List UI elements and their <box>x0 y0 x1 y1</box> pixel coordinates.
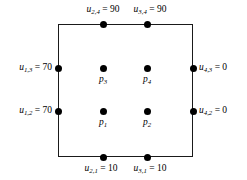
interior-label-p4: p4 <box>143 75 151 85</box>
boundary-label-u-4-2: u4,2 = 0 <box>199 106 227 116</box>
boundary-node-dot-u-2-1 <box>100 154 107 161</box>
boundary-label-u-4-3: u4,3 = 0 <box>199 63 227 73</box>
boundary-value-u-4-3: 0 <box>222 62 227 72</box>
boundary-label-u-2-1: u2,1 = 10 <box>85 164 118 174</box>
boundary-label-u-3-1: u3,1 = 10 <box>134 164 167 174</box>
boundary-value-u-2-1: 10 <box>108 163 118 173</box>
boundary-node-dot-u-4-2 <box>190 108 197 115</box>
boundary-node-dot-u-4-3 <box>190 65 197 72</box>
boundary-subscript-u-1-2: 1,2 <box>24 109 33 116</box>
interior-node-dot-p1 <box>100 108 107 115</box>
boundary-subscript-u-1-3: 1,3 <box>24 66 33 73</box>
domain-square-boundary <box>58 24 193 157</box>
interior-node-dot-p4 <box>144 65 151 72</box>
boundary-label-u-3-4: u3,4 = 90 <box>134 5 167 15</box>
boundary-subscript-u-2-1: 2,1 <box>89 167 98 174</box>
boundary-node-dot-u-2-4 <box>100 21 107 28</box>
boundary-value-u-3-1: 10 <box>157 163 167 173</box>
interior-node-dot-p2 <box>144 108 151 115</box>
boundary-label-u-2-4: u2,4 = 90 <box>87 5 120 15</box>
boundary-subscript-u-4-2: 4,2 <box>204 109 213 116</box>
interior-subscript-p1: 1 <box>104 121 107 128</box>
interior-label-p2: p2 <box>143 118 151 128</box>
interior-subscript-p4: 4 <box>148 78 151 85</box>
boundary-label-u-1-3: u1,3 = 70 <box>19 63 52 73</box>
interior-label-p1: p1 <box>99 118 107 128</box>
boundary-subscript-u-2-4: 2,4 <box>91 8 100 15</box>
finite-difference-grid-figure: u2,4 = 90 u3,4 = 90 u1,3 = 70 u1,2 = 70 … <box>0 0 247 180</box>
boundary-node-dot-u-3-4 <box>144 21 151 28</box>
boundary-value-u-2-4: 90 <box>110 4 120 14</box>
boundary-node-dot-u-1-3 <box>55 65 62 72</box>
boundary-label-u-1-2: u1,2 = 70 <box>19 106 52 116</box>
boundary-value-u-4-2: 0 <box>222 105 227 115</box>
interior-node-dot-p3 <box>100 65 107 72</box>
interior-subscript-p3: 3 <box>104 78 107 85</box>
boundary-subscript-u-3-4: 3,4 <box>138 8 147 15</box>
boundary-value-u-3-4: 90 <box>157 4 167 14</box>
boundary-subscript-u-3-1: 3,1 <box>138 167 147 174</box>
boundary-node-dot-u-1-2 <box>55 108 62 115</box>
boundary-value-u-1-3: 70 <box>43 62 53 72</box>
interior-subscript-p2: 2 <box>148 121 151 128</box>
boundary-value-u-1-2: 70 <box>43 105 53 115</box>
boundary-subscript-u-4-3: 4,3 <box>204 66 213 73</box>
interior-label-p3: p3 <box>99 75 107 85</box>
boundary-node-dot-u-3-1 <box>144 154 151 161</box>
